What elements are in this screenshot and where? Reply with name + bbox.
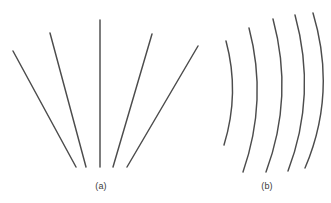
figure-canvas — [0, 0, 331, 203]
figure-container: (a) (b) — [0, 0, 331, 203]
panel-b-arcs-group — [224, 13, 323, 172]
panel-a-line-4 — [113, 34, 152, 167]
panel-b-arc-4 — [288, 15, 304, 171]
panel-a-lines-group — [13, 20, 198, 167]
panel-a-line-5 — [127, 46, 198, 167]
panel-b-arc-5 — [305, 13, 323, 168]
panel-b-arc-2 — [243, 28, 257, 172]
panel-a-line-2 — [50, 33, 86, 167]
panel-b-arc-3 — [266, 19, 282, 172]
panel-b-arc-1 — [224, 41, 233, 145]
panel-b-caption: (b) — [261, 181, 273, 191]
panel-a-caption: (a) — [95, 181, 107, 191]
panel-a-line-1 — [13, 51, 76, 167]
